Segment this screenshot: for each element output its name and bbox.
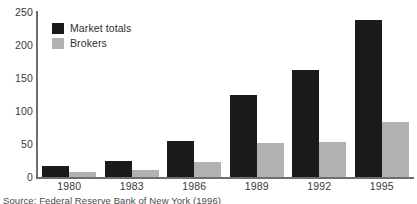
bar-1989-market-totals — [230, 95, 257, 178]
y-tick-label: 100 — [3, 106, 33, 116]
source-note: Source: Federal Reserve Bank of New York… — [3, 195, 221, 204]
y-tick-label: 50 — [3, 139, 33, 149]
bar-1992-market-totals — [292, 70, 319, 177]
bar-1995-brokers — [382, 122, 409, 177]
x-axis-line — [36, 177, 414, 179]
bar-1983-brokers — [132, 170, 159, 177]
bar-1980-brokers — [69, 172, 96, 177]
y-tick-label: 200 — [3, 40, 33, 50]
legend-item-market-totals: Market totals — [52, 22, 131, 34]
y-tick-label: 150 — [3, 73, 33, 83]
x-tick-label: 1989 — [226, 180, 288, 196]
x-tick-label: 1992 — [288, 180, 350, 196]
legend-label-market-totals: Market totals — [70, 22, 131, 34]
bar-1995-market-totals — [355, 20, 382, 177]
legend-item-brokers: Brokers — [52, 37, 131, 49]
bar-group — [167, 12, 221, 177]
bar-1989-brokers — [257, 143, 284, 177]
legend-swatch-market-totals — [52, 23, 64, 34]
bar-1980-market-totals — [42, 166, 69, 177]
y-axis-tick-labels: 250 200 150 100 50 0 — [0, 0, 33, 204]
x-tick-label: 1995 — [351, 180, 413, 196]
legend-label-brokers: Brokers — [70, 37, 107, 49]
bar-chart: 250 200 150 100 50 0 1980198319861989199… — [0, 0, 417, 204]
bar-group — [292, 12, 346, 177]
bar-group — [230, 12, 284, 177]
bar-group — [355, 12, 409, 177]
x-tick-label: 1980 — [38, 180, 100, 196]
x-tick-label: 1986 — [163, 180, 225, 196]
bar-1992-brokers — [319, 142, 346, 177]
legend-swatch-brokers — [52, 38, 64, 49]
bar-1986-brokers — [194, 162, 221, 177]
x-axis-tick-labels: 198019831986198919921995 — [38, 180, 413, 196]
bar-1986-market-totals — [167, 141, 194, 177]
y-tick-label: 0 — [3, 172, 33, 182]
bar-1983-market-totals — [105, 161, 132, 177]
chart-legend: Market totals Brokers — [52, 22, 131, 49]
x-tick-label: 1983 — [101, 180, 163, 196]
y-tick-label: 250 — [3, 7, 33, 17]
